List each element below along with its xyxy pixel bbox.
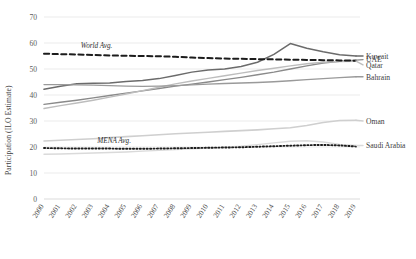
x-tick-2000: 2000 <box>30 202 46 220</box>
x-tick-2013: 2013 <box>244 202 260 220</box>
y-tick-10: 10 <box>29 169 37 178</box>
x-tick-2001: 2001 <box>47 202 63 220</box>
y-tick-70: 70 <box>29 13 37 22</box>
line-chart: 010203040506070 200020012002200320042005… <box>0 0 416 259</box>
x-tick-2004: 2004 <box>96 202 112 220</box>
x-tick-2017: 2017 <box>309 202 325 220</box>
series-line-oman <box>44 120 356 141</box>
x-tick-2015: 2015 <box>277 202 293 220</box>
y-tick-0: 0 <box>33 195 37 204</box>
x-tick-2010: 2010 <box>194 202 210 220</box>
y-tick-60: 60 <box>29 39 37 48</box>
leader-line-oman <box>356 120 363 121</box>
x-tick-2008: 2008 <box>162 202 178 220</box>
series-line-bahrain <box>44 77 356 87</box>
x-tick-2007: 2007 <box>145 202 161 220</box>
y-tick-50: 50 <box>29 65 37 74</box>
x-tick-2002: 2002 <box>63 202 79 220</box>
annotation-mena-avg: MENA Avg. <box>96 137 131 145</box>
x-tick-2019: 2019 <box>342 202 358 220</box>
y-tick-30: 30 <box>29 117 37 126</box>
x-tick-2005: 2005 <box>112 202 128 220</box>
series-label-bahrain: Bahrain <box>366 73 390 82</box>
x-tick-2011: 2011 <box>211 202 226 219</box>
series-label-oman: Oman <box>366 117 385 126</box>
series-label-saudi-arabia: Saudi Arabia <box>366 141 406 150</box>
x-tick-2009: 2009 <box>178 202 194 220</box>
y-tick-40: 40 <box>29 91 37 100</box>
x-tick-2014: 2014 <box>260 202 276 220</box>
series-line-uae <box>44 60 356 104</box>
y-axis-tick-labels: 010203040506070 <box>29 13 37 204</box>
x-tick-2003: 2003 <box>79 202 95 220</box>
leader-line-qatar <box>356 61 363 65</box>
chart-container: 010203040506070 200020012002200320042005… <box>0 0 416 259</box>
series-line-saudi-arabia <box>44 141 356 155</box>
series-lines <box>44 44 356 155</box>
series-end-labels: KuwaitUAEQatarBahrainOmanSaudi Arabia <box>356 52 406 150</box>
x-tick-2018: 2018 <box>326 202 342 220</box>
y-axis-title: Participation (ILO Estimate) <box>4 85 13 175</box>
y-tick-20: 20 <box>29 143 37 152</box>
reference-line-world-avg <box>44 54 356 61</box>
x-tick-2006: 2006 <box>129 202 145 220</box>
x-tick-2012: 2012 <box>227 202 243 220</box>
x-axis-tick-labels: 2000200120022003200420052006200720082009… <box>30 202 358 220</box>
leader-line-uae <box>356 60 363 61</box>
series-label-qatar: Qatar <box>366 61 383 70</box>
x-tick-2016: 2016 <box>293 202 309 220</box>
annotation-world-avg: World Avg. <box>81 42 113 50</box>
